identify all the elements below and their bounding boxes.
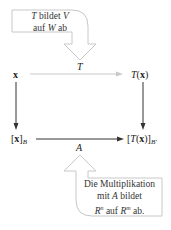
bottom-callout-line3: Rn auf Rm ab. <box>77 202 162 217</box>
bottom-callout-text: Die Multiplikation mit A bildet Rn auf R… <box>77 178 162 217</box>
node-TxB: [T(x)]B′ <box>127 133 157 148</box>
bottom-edge-label: A <box>76 142 82 153</box>
top-arrow-head <box>116 72 123 77</box>
left-arrow-head <box>14 123 19 130</box>
top-callout-text: T bildet V auf W ab <box>14 10 86 34</box>
node-xB: [x]B <box>11 133 27 148</box>
bottom-callout-line1: Die Multiplikation <box>77 178 162 190</box>
bottom-arrow-head <box>117 137 124 142</box>
node-x: x <box>13 69 18 80</box>
top-callout-line1: T bildet V <box>14 10 86 22</box>
node-Tx: T(x) <box>131 69 148 80</box>
top-edge-label: T <box>77 61 83 72</box>
bottom-callout-line2: mit A bildet <box>77 190 162 202</box>
right-arrow-head <box>141 123 146 130</box>
top-callout-line2: auf W ab <box>14 22 86 34</box>
Tx-paren: (x) <box>137 69 149 80</box>
